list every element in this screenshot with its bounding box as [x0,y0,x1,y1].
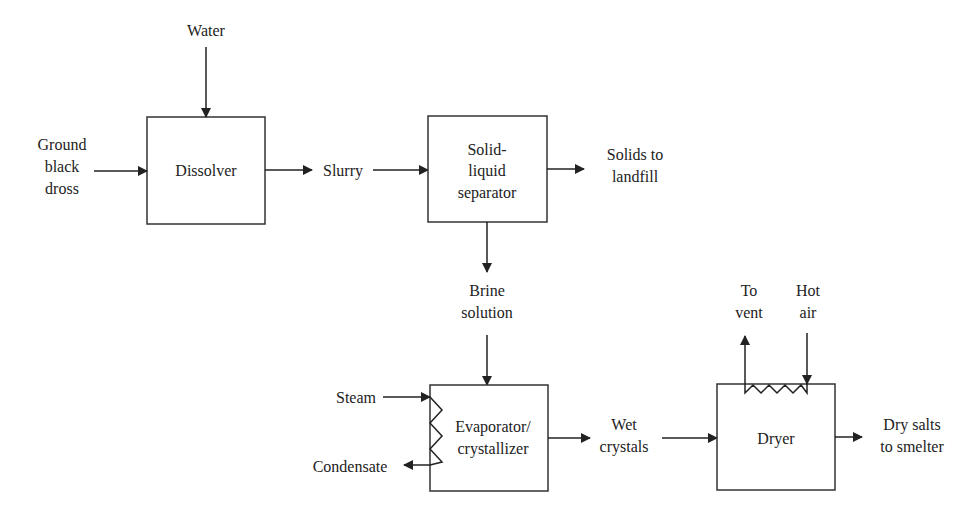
svg-text:landfill: landfill [612,168,659,185]
dissolver-label: Dissolver [175,162,237,179]
svg-text:dross: dross [45,180,79,197]
water-label: Water [187,22,225,39]
svg-text:Solid-: Solid- [467,141,506,158]
steam-label: Steam [336,389,377,406]
dry-salts-label: Dry salts to smelter [880,416,944,455]
svg-text:separator: separator [458,184,517,202]
solids-to-landfill-label: Solids to landfill [607,146,663,185]
condensate-label: Condensate [313,458,388,475]
separator-unit: Solid- liquid separator [428,116,547,222]
svg-text:To: To [741,282,758,299]
evaporator-unit: Evaporator/ crystallizer [430,385,548,491]
dissolver-unit: Dissolver [147,117,265,224]
svg-text:to smelter: to smelter [880,438,944,455]
svg-text:Brine: Brine [469,282,505,299]
to-vent-label: To vent [735,282,763,321]
svg-text:Ground: Ground [38,136,87,153]
slurry-label: Slurry [323,162,363,180]
svg-text:Hot: Hot [796,282,821,299]
dryer-unit: Dryer [717,384,835,490]
svg-text:Wet: Wet [611,416,637,433]
svg-text:vent: vent [735,304,763,321]
svg-text:air: air [800,304,818,321]
svg-text:solution: solution [461,304,513,321]
process-flow-diagram: Dissolver Water Ground black dross Slurr… [0,0,978,519]
svg-text:crystallizer: crystallizer [457,440,529,458]
hot-air-label: Hot air [796,282,821,321]
svg-text:crystals: crystals [600,438,649,456]
svg-text:Evaporator/: Evaporator/ [455,418,531,436]
wet-crystals-label: Wet crystals [600,416,649,456]
ground-black-dross-label: Ground black dross [38,136,87,197]
brine-solution-label: Brine solution [461,282,513,321]
svg-text:liquid: liquid [468,162,505,180]
svg-text:black: black [45,158,80,175]
svg-text:Solids to: Solids to [607,146,663,163]
svg-text:Dry salts: Dry salts [883,416,940,434]
svg-text:Dryer: Dryer [757,430,795,448]
